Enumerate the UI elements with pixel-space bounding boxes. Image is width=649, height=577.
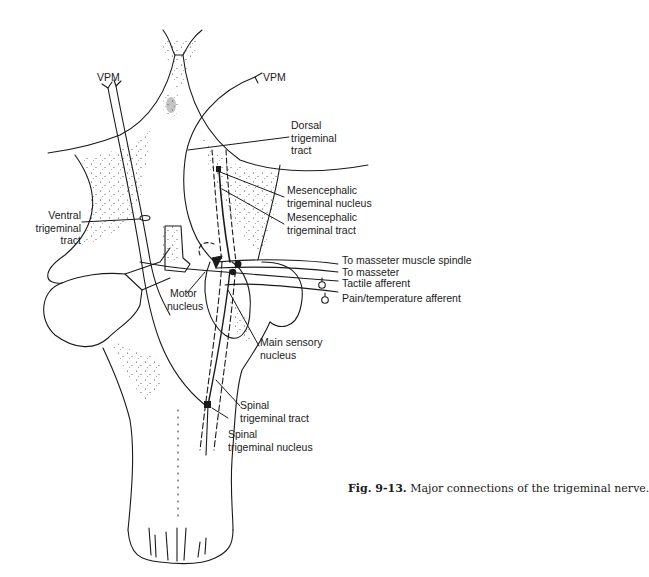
ventral-trigeminal-tract — [102, 80, 205, 405]
spinal-trigeminal-nucleus-label: Spinal trigeminal nucleus — [228, 428, 313, 453]
mesencephalic-tract-label: Mesencephalic trigeminal tract — [287, 211, 357, 236]
to-masseter-spindle-label: To masseter muscle spindle — [342, 254, 472, 267]
tactile-afferent-label: Tactile afferent — [342, 277, 410, 290]
stippled-regions — [80, 40, 280, 400]
mesencephalic-nucleus-label: Mesencephalic trigeminal nucleus — [287, 184, 372, 209]
main-sensory-nucleus-label: Main sensory nucleus — [260, 336, 322, 361]
spinal-trigeminal-tract-label: Spinal trigeminal tract — [240, 399, 309, 424]
pain-temperature-afferent-label: Pain/temperature afferent — [342, 292, 461, 305]
ventral-trigeminal-tract-label: Ventral trigeminal tract — [30, 209, 81, 247]
figure-caption: Fig. 9-13. Major connections of the trig… — [348, 482, 649, 495]
vpm-right-label: VPM — [263, 71, 286, 84]
dorsal-trigeminal-tract-label: Dorsal trigeminal tract — [291, 119, 337, 157]
motor-nucleus-label: Motor nucleus — [167, 287, 203, 312]
vpm-left-label: VPM — [97, 71, 120, 84]
